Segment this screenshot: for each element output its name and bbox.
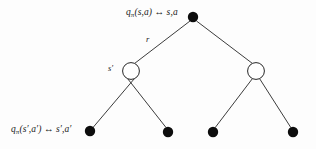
edge-state-right-to-leaf-4 bbox=[260, 79, 292, 128]
root-action-node bbox=[188, 12, 198, 22]
edge-root-to-state-right bbox=[197, 21, 253, 64]
leaf-label-suffix: (s′,a′) ↔ s′,a′ bbox=[19, 124, 71, 134]
edge-state-left-to-leaf-2 bbox=[128, 79, 167, 128]
leaf-action-node-1 bbox=[85, 126, 95, 136]
reward-label: r bbox=[146, 35, 149, 44]
leaf-action-node-3 bbox=[208, 127, 218, 137]
state-node-right bbox=[248, 63, 265, 80]
root-state-action-label: qπ(s,a) ↔ s,a bbox=[126, 8, 178, 18]
edge-state-left-to-leaf-1 bbox=[93, 79, 135, 128]
leaf-action-node-4 bbox=[288, 127, 298, 137]
leaf-state-action-label: qπ(s′,a′) ↔ s′,a′ bbox=[11, 125, 71, 135]
root-label-suffix: (s,a) ↔ s,a bbox=[134, 7, 177, 17]
state-node-left bbox=[123, 63, 140, 80]
edge-state-right-to-leaf-3 bbox=[215, 79, 253, 128]
next-state-label: s′ bbox=[108, 64, 113, 73]
leaf-action-node-2 bbox=[163, 127, 173, 137]
edge-root-to-state-left bbox=[135, 21, 191, 64]
backup-diagram-canvas: qπ(s,a) ↔ s,a r s′ qπ(s′,a′) ↔ s′,a′ bbox=[0, 0, 316, 149]
